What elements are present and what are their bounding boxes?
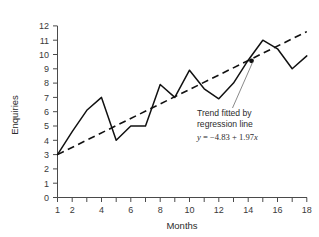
x-tick-label: 4 xyxy=(99,205,104,215)
regression-trend-line xyxy=(58,32,307,155)
x-axis-tick-labels: 1 2 4 6 8 10 12 14 16 18 xyxy=(55,205,312,215)
x-tick-label: 14 xyxy=(243,205,253,215)
x-tick-label: 2 xyxy=(70,205,75,215)
x-tick-label: 6 xyxy=(128,205,133,215)
y-tick-label: 4 xyxy=(44,136,49,146)
y-axis-tick-labels: 0 1 2 3 4 5 6 7 8 9 10 11 12 xyxy=(39,21,49,203)
x-tick-label: 1 xyxy=(55,205,60,215)
y-tick-label: 3 xyxy=(44,150,49,160)
x-axis-ticks xyxy=(58,198,307,203)
trend-annotation: Trend fitted by regression line y = −4.8… xyxy=(196,108,258,142)
annotation-equation: y = −4.83 + 1.97x xyxy=(196,132,258,142)
equation-x-symbol: x xyxy=(253,132,258,142)
y-tick-label: 0 xyxy=(44,193,49,203)
enquiries-data-line xyxy=(58,40,307,154)
equation-body: = −4.83 + 1.97 xyxy=(201,132,255,142)
y-axis-ticks xyxy=(53,26,58,198)
x-tick-label: 10 xyxy=(184,205,194,215)
y-tick-label: 11 xyxy=(40,36,49,46)
y-tick-label: 9 xyxy=(44,64,49,74)
line-chart: 0 1 2 3 4 5 6 7 8 9 10 11 12 xyxy=(0,0,319,237)
y-tick-label: 7 xyxy=(44,93,49,103)
annotation-line-2: regression line xyxy=(197,119,253,129)
y-tick-label: 5 xyxy=(44,121,49,131)
x-tick-label: 16 xyxy=(272,205,282,215)
y-tick-label: 10 xyxy=(39,50,49,60)
y-tick-label: 2 xyxy=(44,164,49,174)
x-tick-label: 12 xyxy=(214,205,224,215)
y-tick-label: 1 xyxy=(44,179,49,189)
x-tick-label: 18 xyxy=(302,205,312,215)
annotation-marker-dot xyxy=(249,58,254,63)
y-tick-label: 8 xyxy=(44,78,49,88)
chart-container: 0 1 2 3 4 5 6 7 8 9 10 11 12 xyxy=(0,0,319,237)
x-axis-title: Months xyxy=(166,220,197,231)
y-tick-label: 12 xyxy=(39,21,49,31)
x-tick-label: 8 xyxy=(158,205,163,215)
y-tick-label: 6 xyxy=(44,107,49,117)
annotation-line-1: Trend fitted by xyxy=(197,108,252,118)
y-axis-title: Enquiries xyxy=(9,95,20,135)
